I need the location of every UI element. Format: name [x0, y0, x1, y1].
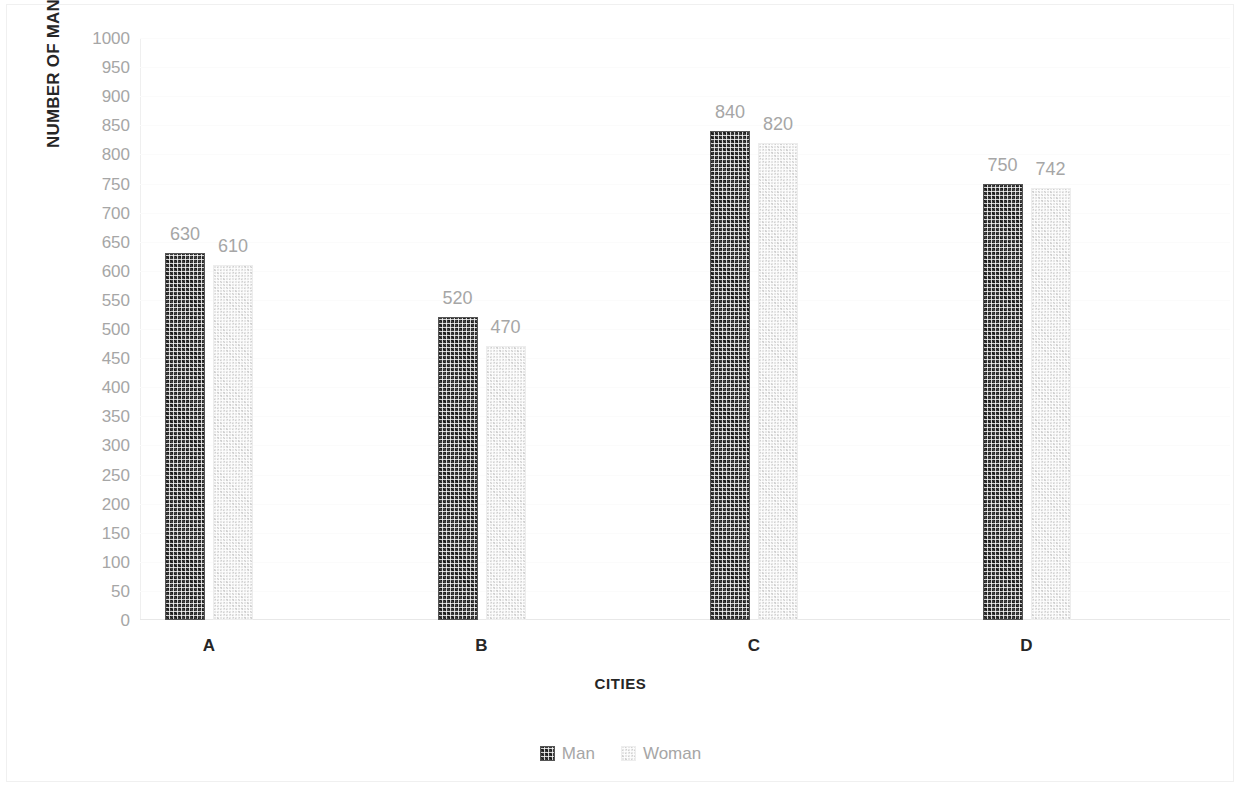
x-axis-category-c: C	[748, 636, 760, 656]
data-label-man-b: 520	[442, 289, 472, 307]
data-label-man-d: 750	[987, 156, 1017, 174]
data-label-woman-b: 470	[490, 318, 520, 336]
legend-swatch-man-icon	[540, 746, 555, 761]
legend-label-man: Man	[562, 745, 595, 762]
data-label-man-a: 630	[170, 225, 200, 243]
data-label-woman-a: 610	[218, 237, 248, 255]
legend: Man Woman	[0, 745, 1241, 762]
legend-item-man[interactable]: Man	[540, 745, 595, 762]
data-label-woman-c: 820	[763, 115, 793, 133]
legend-label-woman: Woman	[643, 745, 701, 762]
bar-chart: NUMBER OF MAN AND WOMAN × 1000 050100150…	[0, 0, 1241, 792]
x-axis-category-b: B	[475, 636, 487, 656]
legend-item-woman[interactable]: Woman	[621, 745, 701, 762]
legend-swatch-woman-icon	[621, 746, 636, 761]
data-label-man-c: 840	[715, 103, 745, 121]
x-axis-category-d: D	[1020, 636, 1032, 656]
x-axis-title: CITIES	[0, 675, 1241, 692]
data-label-woman-d: 742	[1035, 160, 1065, 178]
x-axis-category-a: A	[203, 636, 215, 656]
labels-layer: 630610A520470B840820C750742D	[0, 0, 1241, 792]
